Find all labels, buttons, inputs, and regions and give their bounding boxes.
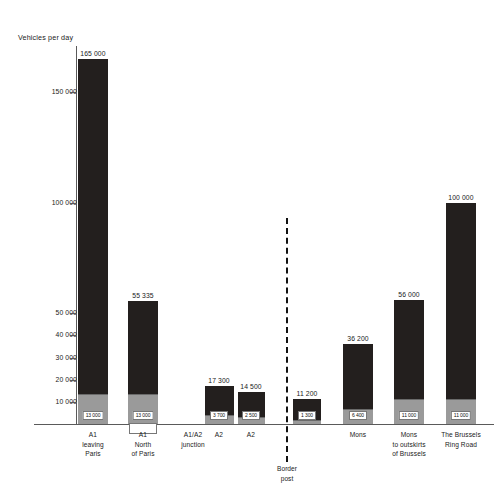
bar-hgv-value-label: 11 000 xyxy=(451,411,471,420)
y-tick-label: 40 000 xyxy=(15,331,77,338)
border-post-label-line2: post xyxy=(264,474,310,484)
bar-total-value-label: 55 335 xyxy=(132,292,153,299)
bar-total-segment[interactable] xyxy=(78,59,108,424)
border-post-label-line1: Border xyxy=(264,464,310,474)
bar-a2-second[interactable]: 2 50014 500 xyxy=(238,392,265,424)
x-axis-label-line1: The Brussels xyxy=(427,430,495,440)
bar-hgv-value-label: 13 000 xyxy=(83,411,104,420)
bar-hgv-segment[interactable]: 6 400 xyxy=(343,409,373,424)
bar-hgv-segment[interactable]: 3 700 xyxy=(205,415,234,424)
chart-container: Vehicles per day 150 000100 00050 00040 … xyxy=(0,0,504,500)
y-tick-mark xyxy=(70,358,77,359)
y-axis-title: Vehicles per day xyxy=(18,33,73,42)
bar-hgv-segment[interactable]: 1 300 xyxy=(293,420,321,424)
x-axis-label-line3: of Paris xyxy=(109,449,177,459)
bar-total-value-label: 36 200 xyxy=(347,335,368,342)
x-axis-label-a2-second: A2 xyxy=(217,430,285,440)
bar-total-value-label: 11 200 xyxy=(297,390,318,397)
bar-a1-north-of-paris[interactable]: 13 00055 335 xyxy=(128,301,158,424)
y-tick-label: 150 000 xyxy=(15,88,77,95)
border-post-label: Border post xyxy=(264,464,310,483)
y-tick-label: 10 000 xyxy=(15,398,77,405)
bar-hgv-segment[interactable]: 13 000 xyxy=(78,394,108,424)
x-axis-label-line3: of Brussels xyxy=(375,449,443,459)
bar-hgv-segment[interactable]: 2 500 xyxy=(238,417,265,424)
bar-a2-first[interactable]: 3 70017 300 xyxy=(205,386,234,424)
y-tick-label: 30 000 xyxy=(15,354,77,361)
bar-hgv-segment[interactable]: 11 000 xyxy=(446,399,476,424)
y-tick-mark xyxy=(70,203,77,204)
bar-total-value-label: 56 000 xyxy=(398,291,419,298)
y-tick-mark xyxy=(70,402,77,403)
y-tick-label: 20 000 xyxy=(15,376,77,383)
bar-hgv-value-label: 3 700 xyxy=(210,411,228,420)
y-tick-label: 100 000 xyxy=(15,199,77,206)
bar-total-value-label: 14 500 xyxy=(240,383,261,390)
y-tick-mark xyxy=(70,92,77,93)
y-tick-mark xyxy=(70,335,77,336)
bar-total-value-label: 165 000 xyxy=(80,50,105,57)
bar-total-value-label: 100 000 xyxy=(448,194,473,201)
x-axis-label-line2: Ring Road xyxy=(427,440,495,450)
bar-mons-approach[interactable]: 1 30011 200 xyxy=(293,399,321,424)
bar-a1-leaving-paris[interactable]: 13 000165 000 xyxy=(78,59,108,424)
y-axis-line xyxy=(76,46,77,425)
y-tick-mark xyxy=(70,380,77,381)
border-post-divider xyxy=(286,218,288,462)
bar-total-segment[interactable] xyxy=(446,203,476,425)
y-tick-label: 50 000 xyxy=(15,309,77,316)
bar-hgv-value-label: 2 500 xyxy=(242,411,260,420)
x-axis-label-line2: junction xyxy=(159,440,227,450)
bar-hgv-segment[interactable]: 11 000 xyxy=(394,399,424,424)
bar-hgv-value-label: 11 000 xyxy=(399,411,419,420)
bar-hgv-value-label: 6 400 xyxy=(349,411,367,420)
bar-hgv-segment[interactable]: 13 000 xyxy=(128,394,158,424)
x-axis-line xyxy=(34,424,494,425)
y-tick-mark xyxy=(70,313,77,314)
bar-hgv-value-label: 1 300 xyxy=(298,411,316,420)
bar-the-brussels-ring-road[interactable]: 11 000100 000 xyxy=(446,203,476,425)
bar-mons[interactable]: 6 40036 200 xyxy=(343,344,373,424)
x-axis-label-line1: A2 xyxy=(217,430,285,440)
bar-total-value-label: 17 300 xyxy=(208,377,229,384)
x-axis-label-the-brussels-ring-road: The BrusselsRing Road xyxy=(427,430,495,449)
bar-mons-to-outskirts-of-brussels[interactable]: 11 00056 000 xyxy=(394,300,424,424)
bar-hgv-value-label: 13 000 xyxy=(133,411,154,420)
